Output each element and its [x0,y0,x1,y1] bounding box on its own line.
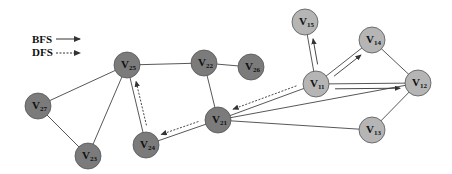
bfs-arrow-v11-v12 [335,88,400,89]
node-v27: V27 [25,93,51,119]
node-v26: V26 [238,54,264,80]
dfs-arrow-v24-v25 [136,81,146,125]
legend-item-dfs: DFS [32,46,80,58]
edge-v21-v13 [218,120,372,130]
edge-v21-v11 [218,84,316,120]
dfs-arrow-v11-v21 [233,86,296,109]
edge-v23-v25 [88,65,127,156]
node-v11: V11 [303,71,329,97]
node-v22: V22 [191,50,217,76]
bfs-arrow-v11-v15 [313,39,318,65]
node-v23: V23 [75,143,101,169]
legend-item-bfs: BFS [32,33,80,45]
edge-v11-v12 [316,83,418,84]
nodes: V25V22V26V27V23V24V21V15V14V11V12V13 [25,9,431,169]
node-v13: V13 [359,117,385,143]
traversal-arrows [136,39,400,135]
graph-traversal-diagram: BFS DFS V25V22V26V27V23V24V21V15V14V11V1… [0,0,452,174]
edge-v27-v25 [38,65,127,106]
dfs-arrow-v21-v24 [161,122,198,135]
legend-label-bfs: BFS [32,33,52,45]
node-v21: V21 [205,107,231,133]
node-v12: V12 [405,70,431,96]
node-v15: V15 [292,9,318,35]
legend-label-dfs: DFS [32,46,53,58]
node-v25: V25 [114,52,140,78]
node-v14: V14 [359,27,385,53]
node-v24: V24 [133,132,159,158]
legend: BFS DFS [32,33,80,58]
bfs-arrow-v11-v14 [334,55,361,76]
